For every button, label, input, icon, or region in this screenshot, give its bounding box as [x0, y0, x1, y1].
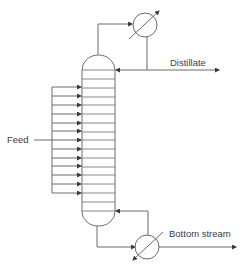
- distillate-label: Distillate: [170, 57, 206, 68]
- overhead-line: [98, 24, 132, 55]
- distillation-column: [82, 55, 115, 226]
- feed-manifold: [34, 87, 81, 193]
- reboiler-icon: [133, 232, 163, 260]
- bottoms-line: [97, 226, 135, 247]
- distillation-diagram: Feed Distillate Bottom stream: [0, 0, 243, 268]
- feed-label: Feed: [7, 134, 29, 145]
- condenser-icon: [129, 11, 159, 39]
- column-trays: [82, 70, 115, 211]
- bottom-stream-label: Bottom stream: [169, 228, 231, 239]
